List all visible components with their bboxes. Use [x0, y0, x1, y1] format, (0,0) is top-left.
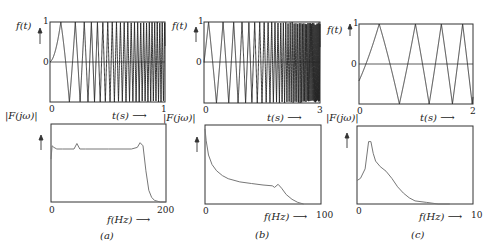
panel-c-caption: (c) [411, 230, 424, 240]
panel-c-ylabel-Fjw: |F(jω)| [326, 113, 359, 123]
panel-c-ftick-end: 10 [471, 211, 482, 220]
panel-c-spectrum-line [357, 142, 450, 204]
panel-b-ftick-0: 0 [203, 207, 209, 216]
panel-a-ylabel-ft: f(t) [16, 21, 32, 31]
panel-a-ytick-0: 0 [43, 58, 49, 67]
panel-c-ytick-0: 0 [351, 60, 357, 69]
panel-b-xtick-0: 0 [203, 106, 209, 115]
panel-a-ylabel-Fjw: |F(jω)| [5, 111, 38, 121]
panel-c-xlabel-ts: t(s) ⟶ [420, 113, 454, 123]
figure-canvas [0, 0, 489, 252]
panel-b-xlabel-ts: t(s) ⟶ [267, 113, 301, 123]
panel-c-spectrum-frame [357, 126, 473, 204]
panel-a-caption: (a) [100, 231, 114, 241]
panel-b-ylabel-ft: f(t) [172, 21, 188, 31]
panel-a-ftick-end: 200 [157, 206, 174, 215]
panel-c-ytick-1: 1 [353, 19, 359, 28]
panel-c-ftick-0: 0 [356, 207, 362, 216]
panel-a-xtick-0: 0 [49, 105, 55, 114]
panel-a-ftick-0: 0 [49, 206, 55, 215]
panel-c-ylabel-ft: f(t) [327, 25, 343, 35]
panel-a-xlabel-fhz: f(Hz) ⟶ [107, 215, 150, 225]
panel-b-ftick-end: 100 [316, 211, 333, 220]
panel-b-waveform [204, 22, 320, 103]
panel-a-xlabel-ts: t(s) ⟶ [112, 111, 146, 121]
panel-a-spectrum-line [51, 143, 166, 202]
panel-b-spectrum-frame [205, 125, 321, 204]
panel-c-xtick-end: 2 [470, 107, 476, 116]
panel-b-caption: (b) [255, 230, 269, 240]
panel-c-xlabel-fhz: f(Hz) ⟶ [419, 212, 462, 222]
panel-b-spectrum-line [205, 129, 304, 204]
panel-b-xlabel-fhz: f(Hz) ⟶ [264, 212, 307, 222]
panel-b-xtick-end: 3 [317, 106, 323, 115]
panel-b-ylabel-Fjw: |F(jω)| [163, 113, 196, 123]
panel-b-ytick-1: 1 [198, 17, 204, 26]
panel-b-ytick-0: 0 [196, 58, 202, 67]
panel-a-ytick-1: 1 [43, 17, 49, 26]
